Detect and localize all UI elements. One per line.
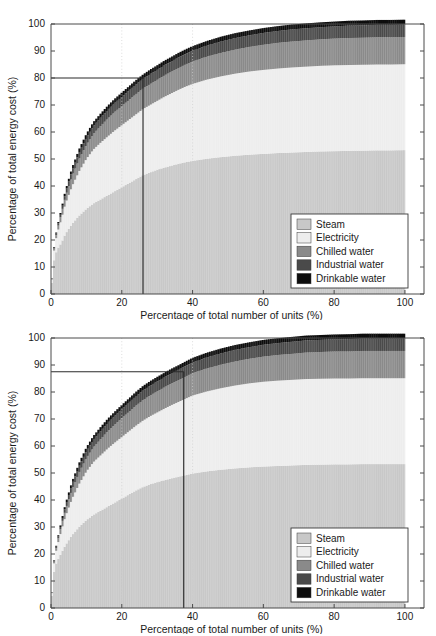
legend-swatch-electricity bbox=[297, 547, 311, 557]
y-tick-label: 60 bbox=[34, 440, 46, 451]
y-tick-label: 80 bbox=[34, 386, 46, 397]
legend-swatch-industrial-water bbox=[297, 574, 311, 584]
x-axis-title: Percentage of total number of units (%) bbox=[140, 309, 323, 320]
x-tick-label: 100 bbox=[397, 297, 414, 308]
x-axis-title: Percentage of total number of units (%) bbox=[140, 623, 323, 634]
lower-plot-area: 0102030405060708090100020406080100Percen… bbox=[0, 322, 436, 634]
y-tick-label: 10 bbox=[34, 261, 46, 272]
legend: SteamElectricityChilled waterIndustrial … bbox=[291, 528, 408, 602]
y-tick-label: 0 bbox=[39, 288, 45, 299]
legend-label-steam: Steam bbox=[316, 533, 345, 544]
legend-swatch-drinkable-water bbox=[297, 587, 311, 597]
y-tick-label: 100 bbox=[28, 332, 45, 343]
legend-label-electricity: Electricity bbox=[316, 232, 359, 243]
y-tick-label: 100 bbox=[28, 18, 45, 29]
x-tick-label: 60 bbox=[258, 611, 270, 622]
legend-swatch-chilled-water bbox=[297, 246, 311, 256]
y-tick-label: 40 bbox=[34, 494, 46, 505]
y-tick-label: 90 bbox=[34, 359, 46, 370]
legend-swatch-drinkable-water bbox=[297, 273, 311, 283]
x-tick-label: 40 bbox=[187, 611, 199, 622]
legend-swatch-electricity bbox=[297, 233, 311, 243]
legend-label-drinkable-water: Drinkable water bbox=[316, 273, 386, 284]
y-axis-title: Percentage of total energy cost (%) bbox=[6, 391, 18, 556]
y-tick-label: 80 bbox=[34, 72, 46, 83]
x-tick-label: 80 bbox=[329, 297, 341, 308]
y-tick-label: 70 bbox=[34, 413, 46, 424]
y-tick-label: 90 bbox=[34, 45, 46, 56]
legend-label-drinkable-water: Drinkable water bbox=[316, 587, 386, 598]
x-tick-label: 20 bbox=[116, 611, 128, 622]
upper-plot-area: 0102030405060708090100020406080100Percen… bbox=[0, 8, 436, 320]
legend-label-steam: Steam bbox=[316, 219, 345, 230]
x-tick-label: 20 bbox=[116, 297, 128, 308]
y-axis-title: Percentage of total energy cost (%) bbox=[6, 77, 18, 242]
pareto-chart-87: 0102030405060708090100020406080100Percen… bbox=[0, 322, 436, 634]
x-tick-label: 80 bbox=[329, 611, 341, 622]
y-tick-label: 20 bbox=[34, 234, 46, 245]
legend-swatch-chilled-water bbox=[297, 560, 311, 570]
legend-label-electricity: Electricity bbox=[316, 546, 359, 557]
legend-label-industrial-water: Industrial water bbox=[316, 573, 384, 584]
y-tick-label: 50 bbox=[34, 153, 46, 164]
x-tick-label: 40 bbox=[187, 297, 199, 308]
lower-pareto-figure: 0102030405060708090100020406080100Percen… bbox=[0, 322, 436, 634]
legend-swatch-steam bbox=[297, 219, 311, 229]
y-tick-label: 20 bbox=[34, 548, 46, 559]
figure-page: 0102030405060708090100020406080100Percen… bbox=[0, 0, 436, 636]
legend-label-chilled-water: Chilled water bbox=[316, 246, 374, 257]
x-tick-label: 0 bbox=[48, 611, 54, 622]
y-tick-label: 30 bbox=[34, 521, 46, 532]
x-tick-label: 0 bbox=[48, 297, 54, 308]
legend-label-chilled-water: Chilled water bbox=[316, 560, 374, 571]
y-tick-label: 0 bbox=[39, 602, 45, 613]
legend: SteamElectricityChilled waterIndustrial … bbox=[291, 214, 408, 288]
legend-swatch-steam bbox=[297, 533, 311, 543]
y-tick-label: 40 bbox=[34, 180, 46, 191]
legend-label-industrial-water: Industrial water bbox=[316, 259, 384, 270]
y-tick-label: 10 bbox=[34, 575, 46, 586]
y-tick-label: 70 bbox=[34, 99, 46, 110]
y-tick-label: 30 bbox=[34, 207, 46, 218]
legend-swatch-industrial-water bbox=[297, 260, 311, 270]
pareto-chart-80: 0102030405060708090100020406080100Percen… bbox=[0, 8, 436, 320]
y-tick-label: 60 bbox=[34, 126, 46, 137]
x-tick-label: 60 bbox=[258, 297, 270, 308]
x-tick-label: 100 bbox=[397, 611, 414, 622]
upper-pareto-figure: 0102030405060708090100020406080100Percen… bbox=[0, 8, 436, 320]
y-tick-label: 50 bbox=[34, 467, 46, 478]
